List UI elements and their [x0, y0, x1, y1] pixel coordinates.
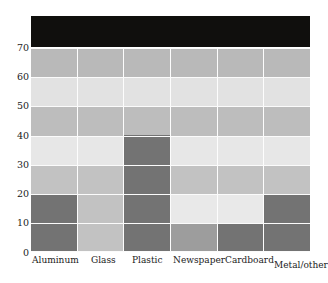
x-axis: Aluminum Glass Plastic Newspaper Cardboa…: [31, 256, 310, 280]
y-tick-label: 10: [3, 218, 29, 228]
bar-column-glass: [78, 48, 125, 252]
bar-columns: [31, 48, 310, 252]
x-tick-label-newspaper: Newspaper: [173, 256, 225, 265]
header-band: [31, 16, 310, 47]
x-tick-label-glass: Glass: [91, 256, 116, 265]
bar-column-aluminum: [31, 48, 78, 252]
y-tick-label: 70: [3, 43, 29, 53]
bar-column-cardboard: [218, 48, 265, 252]
bar-metal-other: [264, 194, 310, 252]
x-tick-label-cardboard: Cardboard: [225, 256, 274, 265]
x-tick-label-metal-other: Metal/other: [274, 261, 328, 270]
x-tick-label-plastic: Plastic: [132, 256, 162, 265]
bar-column-plastic: [124, 48, 171, 252]
y-tick-label: 30: [3, 160, 29, 170]
bar-glass: [78, 165, 124, 252]
y-tick-label: 0: [3, 248, 29, 258]
bar-newspaper: [171, 223, 217, 252]
y-axis: 70 60 50 40 30 20 10 0: [0, 0, 29, 283]
plot-area: [31, 16, 310, 252]
bar-plastic: [124, 135, 170, 252]
bar-column-newspaper: [171, 48, 218, 252]
bar-aluminum: [31, 194, 77, 252]
y-tick-label: 40: [3, 131, 29, 141]
bar-cardboard: [218, 223, 264, 252]
y-tick-label: 50: [3, 101, 29, 111]
y-tick-label: 20: [3, 189, 29, 199]
y-tick-label: 60: [3, 72, 29, 82]
bar-column-metal-other: [264, 48, 310, 252]
x-tick-label-aluminum: Aluminum: [32, 256, 79, 265]
